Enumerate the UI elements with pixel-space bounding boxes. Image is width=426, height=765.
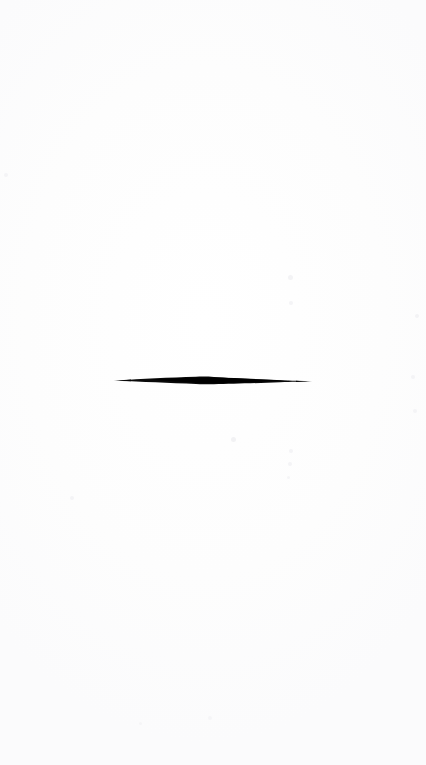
- specimen-left-tip: [114, 380, 132, 382]
- specimen-silhouette-icon: [0, 0, 426, 765]
- specimen-figure: [0, 0, 426, 765]
- specimen-right-tip: [296, 381, 313, 382]
- scanned-page: [0, 0, 426, 765]
